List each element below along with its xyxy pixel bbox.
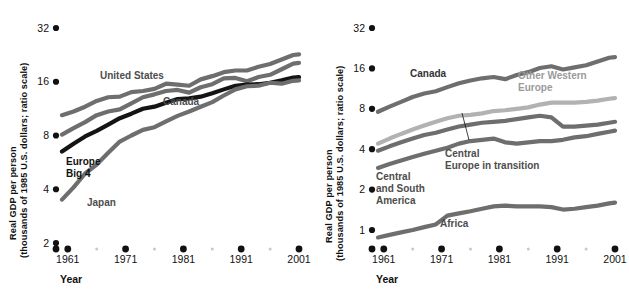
- left-y-axis-title-line1: Real GDP per person: [8, 146, 18, 240]
- left-y-axis-title: Real GDP per person (thousands of 1985 U…: [8, 63, 29, 258]
- axis-origin-dot: [53, 246, 60, 253]
- x-tick-dot: [612, 246, 619, 253]
- y-tick-label: 32: [37, 22, 49, 34]
- y-tick-dot: [369, 186, 375, 192]
- y-tick-label: 4: [359, 143, 365, 155]
- left-x-ticks: 19611971198119912001: [53, 246, 311, 265]
- x-minor-tick-dot: [527, 248, 530, 251]
- x-tick-label: 2001: [287, 253, 311, 265]
- series-label-europe-big4-line1: Europe: [66, 156, 101, 167]
- right-y-axis-title-line2: (thousands of 1985 U.S. dollars; ratio s…: [335, 66, 345, 261]
- x-minor-tick-dot: [95, 248, 98, 251]
- series-line-central-europe-in-transition: [378, 116, 615, 151]
- figure-root: Real GDP per person (thousands of 1985 U…: [0, 0, 629, 295]
- series-label-central-south-america-line2: and South: [376, 183, 425, 194]
- right-y-axis-title-line1: Real GDP per person: [324, 149, 334, 243]
- x-minor-tick-dot: [269, 248, 272, 251]
- right-y-ticks: 12481632: [353, 22, 375, 236]
- left-chart-svg: Real GDP per person (thousands of 1985 U…: [0, 0, 314, 295]
- axis-origin-dot: [369, 246, 376, 253]
- x-tick-label: 1991: [546, 253, 570, 265]
- series-label-central-europe-transition-line2: Europe in transition: [445, 160, 539, 171]
- series-label-united-states: United States: [100, 70, 164, 81]
- y-tick-label: 8: [359, 102, 365, 114]
- x-tick-dot: [496, 246, 503, 253]
- left-y-ticks: 2481632: [37, 22, 59, 249]
- x-tick-label: 1981: [488, 253, 512, 265]
- y-tick-label: 2: [43, 237, 49, 249]
- y-tick-label: 1: [359, 224, 365, 236]
- x-tick-dot: [380, 246, 387, 253]
- x-tick-label: 1991: [230, 253, 254, 265]
- x-tick-dot: [122, 246, 129, 253]
- series-label-central-south-america-line1: Central: [376, 171, 411, 182]
- x-tick-label: 1981: [172, 253, 196, 265]
- series-label-canada: Canada: [410, 68, 447, 79]
- x-tick-dot: [180, 246, 187, 253]
- x-tick-dot: [554, 246, 561, 253]
- series-label-canada: Canada: [163, 96, 200, 107]
- series-label-central-europe-transition-line1: Central: [445, 148, 480, 159]
- right-series-lines: [378, 57, 615, 237]
- series-label-other-western-europe-line2: Europe: [518, 82, 553, 93]
- series-label-other-western-europe-line1: Other Western: [518, 70, 587, 81]
- y-tick-label: 16: [353, 62, 365, 74]
- y-tick-dot: [53, 240, 59, 246]
- y-tick-dot: [369, 25, 375, 31]
- series-label-europe-big4-line2: Big 4: [66, 168, 91, 179]
- x-minor-tick-dot: [585, 248, 588, 251]
- y-tick-dot: [53, 132, 59, 138]
- x-tick-dot: [296, 246, 303, 253]
- y-tick-dot: [369, 106, 375, 112]
- y-tick-dot: [53, 186, 59, 192]
- y-tick-label: 2: [359, 183, 365, 195]
- right-x-axis-label: Year: [376, 273, 398, 285]
- left-x-axis-label: Year: [60, 273, 82, 285]
- left-series-lines: [62, 54, 299, 199]
- chart-panel-left: Real GDP per person (thousands of 1985 U…: [0, 0, 314, 295]
- x-tick-dot: [64, 246, 71, 253]
- x-minor-tick-dot: [153, 248, 156, 251]
- series-label-central-south-america-line3: America: [376, 195, 416, 206]
- right-y-axis-title: Real GDP per person (thousands of 1985 U…: [324, 66, 345, 261]
- y-tick-label: 16: [37, 75, 49, 87]
- x-tick-label: 2001: [603, 253, 627, 265]
- y-tick-label: 8: [43, 129, 49, 141]
- right-x-ticks: 19611971198119912001: [369, 246, 627, 265]
- chart-panel-right: Real GDP per person (thousands of 1985 U…: [314, 0, 628, 295]
- x-tick-dot: [438, 246, 445, 253]
- x-tick-label: 1961: [372, 253, 396, 265]
- series-line-africa: [378, 203, 615, 238]
- x-tick-label: 1971: [430, 253, 454, 265]
- x-tick-dot: [238, 246, 245, 253]
- x-tick-label: 1971: [114, 253, 138, 265]
- series-label-africa: Africa: [440, 218, 469, 229]
- x-minor-tick-dot: [411, 248, 414, 251]
- left-y-axis-title-line2: (thousands of 1985 U.S. dollars; ratio s…: [19, 63, 29, 258]
- right-chart-svg: Real GDP per person (thousands of 1985 U…: [314, 0, 629, 295]
- series-label-japan: Japan: [87, 197, 116, 208]
- x-minor-tick-dot: [469, 248, 472, 251]
- y-tick-dot: [369, 65, 375, 71]
- x-tick-label: 1961: [56, 253, 80, 265]
- y-tick-dot: [53, 25, 59, 31]
- y-tick-dot: [369, 227, 375, 233]
- y-tick-dot: [369, 146, 375, 152]
- y-tick-label: 32: [353, 22, 365, 34]
- y-tick-dot: [53, 79, 59, 85]
- x-minor-tick-dot: [211, 248, 214, 251]
- y-tick-label: 4: [43, 183, 49, 195]
